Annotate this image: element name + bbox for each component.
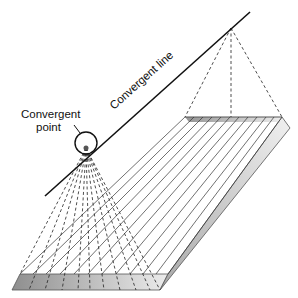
- convergent-line: [45, 12, 250, 196]
- plate-top-edge-teeth: [185, 117, 282, 122]
- far-edge-rays: [185, 28, 282, 117]
- plate-strip-lines: [20, 117, 282, 274]
- plate-side-face: [160, 117, 290, 290]
- convergent-point-label-line2: point: [36, 121, 62, 133]
- convergent-point-dot: [84, 146, 89, 151]
- convergent-point-label-line1: Convergent: [21, 108, 81, 120]
- convergent-geometry-diagram: Convergent point Convergent line: [0, 0, 298, 298]
- convergent-point-rays: [20, 148, 160, 290]
- convergent-line-label: Convergent line: [107, 49, 175, 112]
- convergent-point-leader: [74, 125, 80, 133]
